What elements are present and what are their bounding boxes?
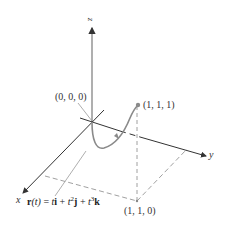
point-1-1-0 bbox=[136, 200, 138, 202]
space-curve bbox=[92, 105, 138, 148]
end-point-label: (1, 1, 1) bbox=[143, 100, 175, 110]
eq-k: k bbox=[94, 196, 100, 207]
point-1-1-1 bbox=[136, 103, 140, 107]
y-axis bbox=[140, 137, 206, 156]
x-axis-label: x bbox=[16, 195, 20, 205]
y-axis-label: y bbox=[209, 150, 213, 160]
eq-equals: = bbox=[41, 196, 52, 207]
eq-plus1: + bbox=[57, 196, 68, 207]
projection-point-label: (1, 1, 0) bbox=[124, 206, 156, 216]
diagram-canvas bbox=[0, 0, 229, 228]
eq-arg: (t) bbox=[31, 196, 40, 207]
vector-equation: r(t) = ti + t2j + t3k bbox=[27, 197, 100, 207]
z-axis-label: z bbox=[86, 18, 95, 22]
curve-direction-arrow bbox=[114, 133, 119, 139]
equation-leader-line bbox=[55, 151, 86, 196]
origin-label: (0, 0, 0) bbox=[55, 92, 87, 102]
eq-plus2: + bbox=[77, 196, 88, 207]
dashed-y-parallel bbox=[137, 149, 187, 201]
